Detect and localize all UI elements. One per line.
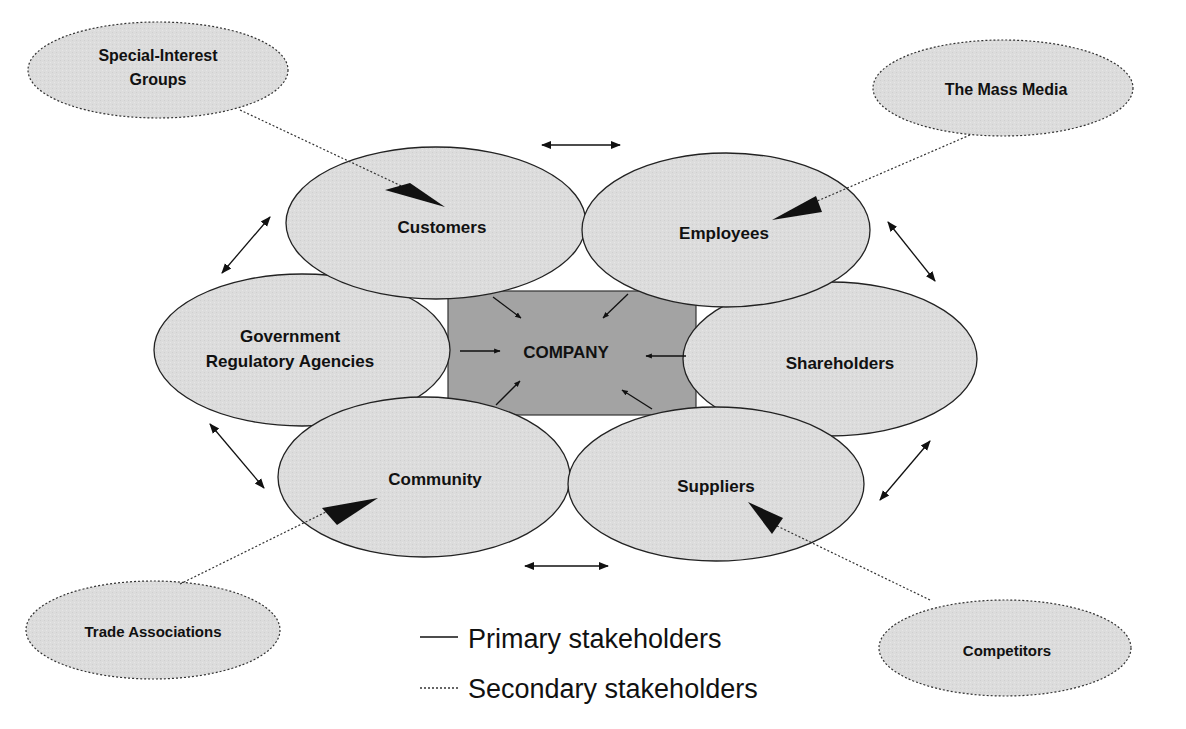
- legend-secondary-label: Secondary stakeholders: [468, 674, 758, 704]
- suppliers-label: Suppliers: [677, 477, 754, 496]
- employees-label: Employees: [679, 224, 769, 243]
- trade-associations-label: Trade Associations: [85, 623, 222, 640]
- customers-label: Customers: [398, 218, 487, 237]
- stakeholder-diagram: COMPANY Customers Employees Government R…: [0, 0, 1186, 729]
- secondary-node-special-interest: [28, 22, 288, 118]
- government-label-line2: Regulatory Agencies: [206, 352, 374, 371]
- special-interest-label-line2: Groups: [130, 71, 187, 88]
- shareholders-label: Shareholders: [786, 354, 895, 373]
- competitors-label: Competitors: [963, 642, 1051, 659]
- community-label: Community: [388, 470, 482, 489]
- company-label: COMPANY: [523, 343, 609, 362]
- mass-media-label: The Mass Media: [945, 81, 1068, 98]
- legend: Primary stakeholders Secondary stakehold…: [420, 624, 758, 704]
- special-interest-label-line1: Special-Interest: [98, 47, 218, 64]
- government-label-line1: Government: [240, 327, 340, 346]
- legend-primary-label: Primary stakeholders: [468, 624, 722, 654]
